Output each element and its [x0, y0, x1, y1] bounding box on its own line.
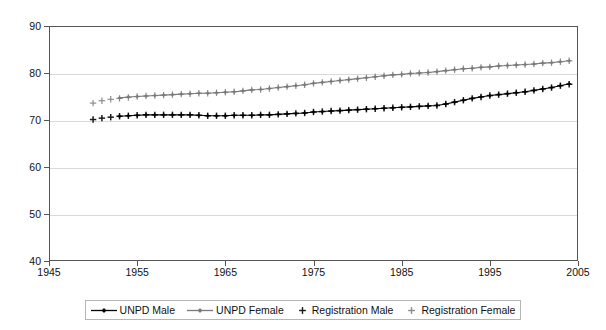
x-tick-mark-1985	[402, 261, 403, 266]
y-tick-mark-60	[44, 167, 49, 168]
legend-label: UNPD Male	[120, 304, 175, 316]
plus-marker-icon	[405, 305, 418, 316]
plus-marker-icon	[296, 305, 309, 316]
x-tick-label-2005: 2005	[566, 266, 589, 278]
x-tick-mark-1975	[314, 261, 315, 266]
x-tick-label-1975: 1975	[302, 266, 325, 278]
legend-label: Registration Male	[312, 304, 394, 316]
x-tick-label-1945: 1945	[37, 266, 60, 278]
legend-item-unpd-male[interactable]: UNPD Male	[85, 304, 181, 316]
y-tick-mark-80	[44, 73, 49, 74]
chart-legend: UNPD MaleUNPD FemaleRegistration MaleReg…	[85, 300, 521, 320]
x-tick-mark-1995	[490, 261, 491, 266]
chart-container: 405060708090 194519551965197519851995200…	[0, 0, 606, 330]
x-tick-mark-1945	[49, 261, 50, 266]
diamond-marker-icon	[187, 305, 213, 316]
legend-item-registration-female[interactable]: Registration Female	[399, 304, 521, 316]
legend-item-registration-male[interactable]: Registration Male	[290, 304, 400, 316]
y-tick-mark-90	[44, 26, 49, 27]
diamond-marker-icon	[91, 305, 117, 316]
x-tick-mark-1965	[225, 261, 226, 266]
x-tick-label-1955: 1955	[125, 266, 148, 278]
x-tick-mark-2005	[578, 261, 579, 266]
x-tick-mark-1955	[137, 261, 138, 266]
y-tick-mark-50	[44, 214, 49, 215]
legend-label: Registration Female	[421, 304, 515, 316]
x-tick-label-1965: 1965	[214, 266, 237, 278]
x-axis-labels: 1945195519651975198519952005	[0, 0, 606, 330]
x-tick-label-1985: 1985	[390, 266, 413, 278]
x-tick-label-1995: 1995	[478, 266, 501, 278]
y-tick-mark-70	[44, 120, 49, 121]
legend-item-unpd-female[interactable]: UNPD Female	[181, 304, 290, 316]
legend-label: UNPD Female	[216, 304, 284, 316]
